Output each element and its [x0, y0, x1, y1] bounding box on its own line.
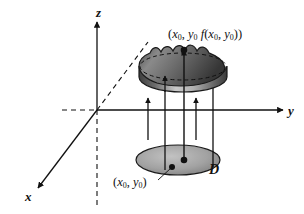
surface-point-y-sub: 0 [194, 33, 198, 42]
surface-point-fy-sub: 0 [230, 33, 234, 42]
domain-point-close-paren: ) [143, 175, 147, 189]
figure-canvas [0, 0, 304, 214]
surface-point-label: (x0, y0 f(x0, y0)) [168, 28, 242, 41]
math-figure: (x0, y0 f(x0, y0)) (x0, y0) x y z D [0, 0, 304, 214]
surface-point-dot [181, 47, 188, 54]
x-axis [38, 110, 97, 188]
surface-point-y: y [188, 27, 194, 41]
domain-point-dot [181, 157, 188, 164]
domain-point-x-sub: 0 [123, 181, 127, 190]
domain-point-label: (x0, y0) [113, 176, 147, 189]
x-axis-label: x [25, 190, 32, 203]
surface-point-close-paren: ) [238, 27, 242, 41]
surface-point-x: x [172, 27, 178, 41]
domain-region-label: D [209, 163, 219, 177]
domain-disk [136, 145, 220, 175]
surface-point-x-sub: 0 [178, 33, 182, 42]
domain-point-x: x [117, 175, 123, 189]
domain-point-y: y [133, 175, 139, 189]
surface-point-fy: y [224, 27, 230, 41]
surface-point-fx-sub: 0 [214, 33, 218, 42]
z-axis-label: z [96, 6, 101, 19]
y-axis-label: y [288, 104, 294, 117]
domain-point-y-sub: 0 [139, 181, 143, 190]
